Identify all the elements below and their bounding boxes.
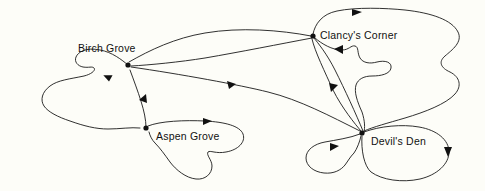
graph-diagram-canvas: Birch Grove Clancy's Corner Aspen Grove … xyxy=(0,0,485,191)
edge-devils-to-clancy[interactable] xyxy=(314,38,363,131)
arrowhead-aspen-self xyxy=(203,118,212,125)
edge-birch-to-clancy[interactable] xyxy=(129,30,311,62)
node-label-clancys-corner: Clancy's Corner xyxy=(320,29,397,41)
edge-aspen-to-birch[interactable] xyxy=(130,70,147,127)
arrowhead-devils-self-left xyxy=(330,143,339,151)
arrowhead-birch-self xyxy=(102,73,112,82)
graph-svg xyxy=(0,0,485,191)
node-label-aspen-grove: Aspen Grove xyxy=(156,130,219,142)
node-birch-grove[interactable] xyxy=(125,62,130,67)
edge-clancy-to-birch[interactable] xyxy=(131,38,312,66)
node-label-devils-den: Devil's Den xyxy=(371,135,426,147)
edge-devils-self-left[interactable] xyxy=(306,134,361,173)
edge-aspen-self[interactable] xyxy=(148,118,244,179)
node-label-birch-grove: Birch Grove xyxy=(78,42,136,54)
arrowhead-clancy-self-inner xyxy=(334,45,343,54)
edge-clancy-self-inner[interactable] xyxy=(315,38,391,132)
arrowhead-devils-self-right xyxy=(444,147,452,157)
arrowhead-clancy-self-outer xyxy=(352,9,362,16)
node-aspen-grove[interactable] xyxy=(143,125,148,130)
node-clancys-corner[interactable] xyxy=(310,33,315,38)
edge-devils-self-right[interactable] xyxy=(362,126,452,181)
node-devils-den[interactable] xyxy=(359,130,364,135)
edge-birch-self[interactable] xyxy=(42,49,140,129)
edge-clancy-to-devils[interactable] xyxy=(312,39,361,131)
